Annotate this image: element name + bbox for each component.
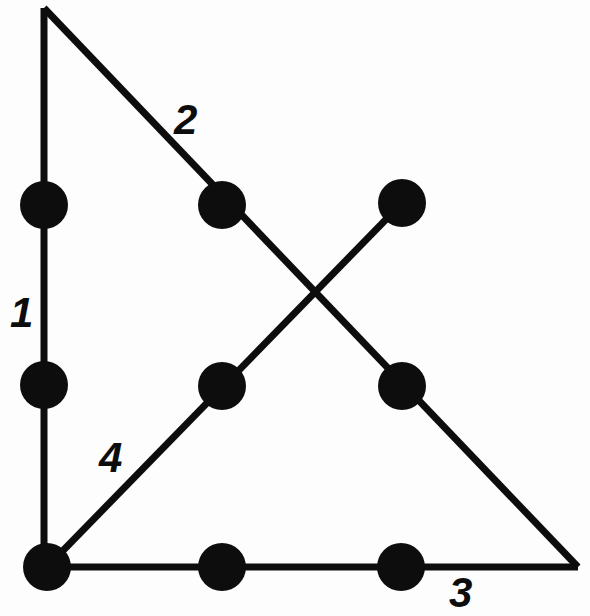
point-marker-node-seg2-upper <box>198 181 246 229</box>
label-segment-3: 3 <box>449 572 471 614</box>
point-marker-node-seg1-upper <box>20 181 68 229</box>
point-marker-node-seg1-lower <box>20 361 68 409</box>
point-marker-node-seg4-upper-end <box>378 179 426 227</box>
point-marker-node-seg4-middle <box>198 362 246 410</box>
label-segment-4: 4 <box>99 437 121 479</box>
line-diagram-svg <box>0 0 590 616</box>
figure-canvas: 1234 <box>0 0 590 616</box>
point-marker-node-seg3-left-corner <box>23 543 71 591</box>
label-segment-1: 1 <box>10 292 32 334</box>
point-marker-node-seg3-middle <box>198 543 246 591</box>
point-marker-node-seg3-right <box>377 543 425 591</box>
point-marker-node-seg2-lower <box>378 362 426 410</box>
segments-group <box>44 8 578 567</box>
label-segment-2: 2 <box>174 99 196 141</box>
